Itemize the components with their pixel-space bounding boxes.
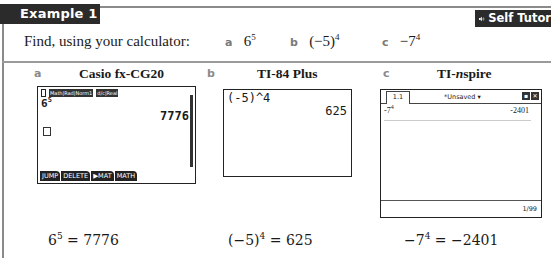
nspire-expression: -74 [384,106,394,115]
speaker-icon [479,14,485,24]
part-letter: c [382,36,389,49]
answer-base: 6 [48,232,57,248]
expr-exp: 5 [48,96,52,104]
page-tab[interactable]: 1.1 [386,91,410,104]
section-letter-c: c [383,67,390,80]
part-base: −7 [400,33,416,49]
nspire-result: -2401 [510,106,529,115]
part-exp: 5 [251,32,256,42]
fkey-jump[interactable]: JUMP [40,171,60,181]
answer-base: −7 [404,232,425,248]
part-exp: 4 [416,32,421,42]
question-prompt: Find, using your calculator: [24,32,190,50]
self-tutor-label: Self Tutor [488,10,551,27]
expr-exp: 4 [391,104,394,110]
settings-icon[interactable]: ▪ [522,92,530,100]
ti84-screen: (-5)^4 625 [223,89,352,177]
function-key-bar: JUMP DELETE ▶MAT MATH [40,171,137,181]
answer-rest: = −2401 [430,232,498,248]
fkey-math[interactable]: MATH [115,171,137,181]
casio-result: 7776 [160,109,189,123]
example-label: Example 1 [0,4,100,24]
part-letter: a [225,36,232,49]
ti84-expression: (-5)^4 [227,91,270,105]
part-base: (−5) [309,33,335,49]
self-tutor-button[interactable]: Self Tutor [475,10,551,27]
casio-status-bar: Math|Rad|Norm1 d/c|Real [41,89,118,97]
title-prefix: TI- [437,66,456,81]
answer-b: (−5)4 = 625 [228,232,313,248]
expr-base: -7 [384,106,391,115]
fkey-mat[interactable]: ▶MAT [91,171,114,181]
casio-screen: Math|Rad|Norm1 d/c|Real 65 7776 JUMP DEL… [37,86,196,184]
casio-expression: 65 [41,97,52,110]
answer-base: (−5) [228,232,260,248]
question-divider [2,61,551,63]
answer-rest: = 7776 [63,232,119,248]
ti84-result: 625 [325,104,347,118]
title-suffix: spire [463,66,491,81]
section-title-nspire: TI-nspire [437,66,492,82]
document-title[interactable]: *Unsaved ▾ [444,93,481,101]
nspire-screen: 1.1 *Unsaved ▾ ▪ ✕ -74 -2401 1/99 [380,89,542,218]
question-part-a: a 65 [225,32,256,52]
window-controls: ▪ ✕ [522,92,539,100]
entry-count: 1/99 [522,205,537,213]
question-part-b: b (−5)4 [290,32,340,52]
section-letter-a: a [34,67,41,80]
scrollbar [190,95,193,167]
answer-c: −74 = −2401 [404,232,498,248]
section-title-casio: Casio fx-CG20 [79,66,164,82]
section-title-ti84: TI-84 Plus [257,66,317,82]
expr-base: 6 [41,97,48,110]
part-exp: 4 [335,32,340,42]
status-pill: d/c|Real [96,89,118,97]
section-letter-b: b [207,67,215,80]
row-divider [384,120,531,121]
cursor-box [43,127,51,136]
left-border [2,6,4,258]
fkey-delete[interactable]: DELETE [61,171,90,181]
battery-icon [41,89,46,97]
question-part-c: c −74 [382,32,420,52]
footer-divider [381,200,541,201]
close-icon[interactable]: ✕ [531,92,539,100]
part-letter: b [290,36,298,49]
answer-rest: = 625 [265,232,312,248]
answer-a: 65 = 7776 [48,232,119,248]
status-pill: Math|Rad|Norm1 [49,89,93,97]
